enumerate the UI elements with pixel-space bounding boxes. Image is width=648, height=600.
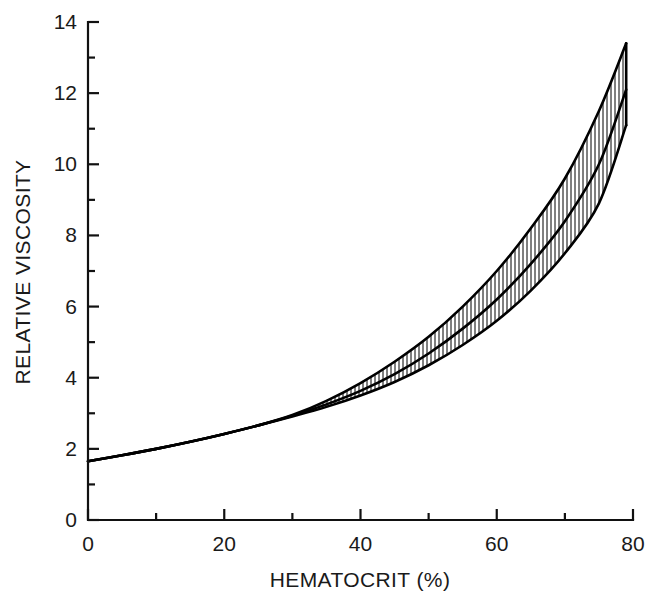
x-tick-label: 80 bbox=[621, 532, 644, 555]
band-fill bbox=[88, 43, 626, 461]
band-lower-edge bbox=[88, 125, 626, 461]
y-tick-label: 8 bbox=[65, 223, 77, 246]
x-axis-ticks bbox=[88, 509, 633, 520]
y-tick-label: 10 bbox=[54, 152, 77, 175]
y-axis-ticks bbox=[88, 22, 99, 520]
x-tick-label: 40 bbox=[349, 532, 372, 555]
x-tick-label: 20 bbox=[213, 532, 236, 555]
y-tick-label: 2 bbox=[65, 437, 77, 460]
band-hatching bbox=[299, 12, 635, 530]
x-axis-tick-labels: 020406080 bbox=[82, 532, 645, 555]
figure-root: 020406080 02468101214 HEMATOCRIT (%) REL… bbox=[0, 0, 648, 600]
x-axis-title: HEMATOCRIT (%) bbox=[270, 568, 451, 591]
y-tick-label: 0 bbox=[65, 508, 77, 531]
y-tick-label: 4 bbox=[65, 366, 77, 389]
x-tick-label: 0 bbox=[82, 532, 94, 555]
y-axis-title: RELATIVE VISCOSITY bbox=[11, 159, 34, 384]
y-tick-label: 6 bbox=[65, 295, 77, 318]
y-axis-tick-labels: 02468101214 bbox=[54, 10, 78, 531]
uncertainty-band bbox=[88, 12, 635, 530]
y-tick-label: 14 bbox=[54, 10, 78, 33]
x-tick-label: 60 bbox=[485, 532, 508, 555]
viscosity-hematocrit-chart: 020406080 02468101214 HEMATOCRIT (%) REL… bbox=[0, 0, 648, 600]
y-tick-label: 12 bbox=[54, 81, 77, 104]
